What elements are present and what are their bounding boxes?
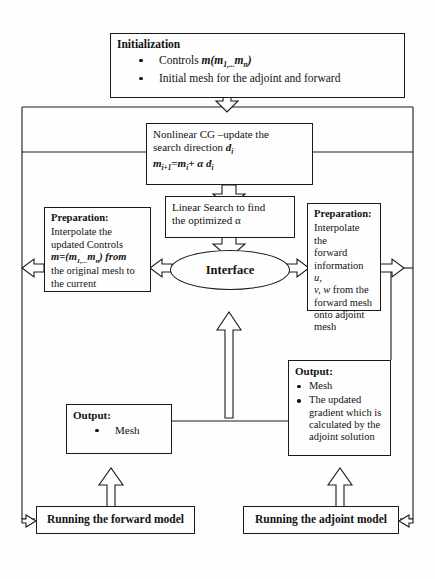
prep-right-line-1: Interpolate the [314, 222, 374, 247]
arrow-interface-to-prep-left [150, 259, 172, 277]
node-preparation-right: Preparation: Interpolate the forward inf… [307, 203, 381, 311]
node-forward-model: Running the forward model [36, 506, 195, 534]
output-right-grad-3: calculated by the [309, 419, 380, 430]
output-right-bullets: Mesh The updated gradient which is calcu… [295, 380, 384, 444]
cg-d2-sub: i [212, 164, 214, 172]
output-right-mesh-label: Mesh [309, 380, 332, 391]
prep-left-m-a: m=(m [51, 251, 77, 262]
initialization-bullet-controls: Controls m(m1,...mn) [117, 54, 398, 70]
cg-alpha: + α [188, 157, 206, 169]
node-linear-search: Linear Search to find the optimized α [165, 196, 295, 238]
prep-right-vw: v, w [314, 284, 330, 295]
adjoint-model-label: Running the adjoint model [255, 513, 387, 527]
initialization-bullet-mesh: Initial mesh for the adjoint and forward [117, 72, 398, 86]
output-right-grad-2: gradient which is [309, 407, 381, 418]
prep-left-m-c: ) from [99, 251, 126, 262]
cg-line-1: Nonlinear CG –update the [153, 128, 306, 141]
controls-label: Controls [159, 54, 202, 66]
arrow-prep-left-out [22, 259, 44, 277]
controls-math-c: ) [248, 54, 252, 66]
initialization-bullets: Controls m(m1,...mn) Initial mesh for th… [117, 54, 398, 86]
output-left-mesh-label: Mesh [115, 424, 139, 436]
prep-right-line-6: onto adjoint [314, 309, 374, 321]
prep-left-line-5: the current [51, 278, 144, 290]
linear-search-line-1: Linear Search to find [172, 201, 288, 214]
linear-search-line-2: the optimized α [172, 214, 288, 227]
output-right-bullet-mesh: Mesh [295, 380, 384, 392]
output-right-bullet-gradient: The updated gradient which is calculated… [295, 394, 384, 444]
prep-right-u: u, [314, 272, 322, 283]
controls-math-a: m(m [202, 54, 224, 66]
cg-search-dir-label: search direction [153, 141, 226, 153]
prep-left-line-4: the original mesh to [51, 265, 144, 277]
node-output-right: Output: Mesh The updated gradient which … [288, 360, 391, 456]
arrow-frame-to-forward-model [22, 515, 36, 527]
interface-label: Interface [206, 263, 255, 278]
cg-m-a: m [153, 157, 162, 169]
prep-right-line-5: forward mesh [314, 297, 374, 309]
arrow-interface-to-prep-right [287, 259, 309, 277]
prep-left-line-2: updated Controls [51, 239, 144, 251]
output-right-title: Output: [295, 365, 384, 378]
initialization-title: Initialization [117, 38, 398, 52]
prep-right-info-label: information [314, 260, 364, 271]
prep-right-line-2: forward [314, 247, 374, 259]
initial-mesh-label: Initial mesh for the adjoint and forward [159, 72, 340, 84]
cg-line-2: search direction di [153, 141, 306, 157]
node-initialization: Initialization Controls m(m1,...mn) Init… [110, 33, 405, 98]
cg-m-a-sub: i+1 [162, 164, 172, 172]
arrow-prep-right-out [380, 259, 404, 277]
node-preparation-left: Preparation: Interpolate the updated Con… [44, 207, 151, 292]
output-left-bullet-mesh: Mesh [73, 424, 165, 437]
controls-sub-1: 1,... [223, 60, 234, 69]
cg-line-3: mi+1=mi+ α di [153, 157, 306, 173]
prep-left-sub-1: 1,... [77, 257, 87, 264]
prep-right-line-7: mesh [314, 321, 374, 333]
output-left-bullets: Mesh [73, 424, 165, 437]
node-adjoint-model: Running the adjoint model [243, 506, 399, 534]
arrow-outputs-to-interface [217, 312, 241, 418]
prep-left-line-1: Interpolate the [51, 226, 144, 238]
prep-right-line-3: information u, [314, 260, 374, 285]
preparation-right-title: Preparation: [314, 208, 374, 220]
node-nonlinear-cg: Nonlinear CG –update the search directio… [146, 123, 313, 185]
prep-right-line-4: v, w from the [314, 284, 374, 296]
output-right-grad-1: The updated [309, 394, 361, 405]
output-right-grad-4: adjoint solution [309, 431, 375, 442]
flowchart-canvas: Initialization Controls m(m1,...mn) Init… [0, 0, 435, 579]
node-output-left: Output: Mesh [66, 404, 172, 454]
cg-m-b: =m [171, 157, 186, 169]
output-left-title: Output: [73, 409, 165, 422]
node-interface: Interface [170, 250, 290, 290]
preparation-left-title: Preparation: [51, 212, 144, 224]
controls-math-b: m [235, 54, 244, 66]
cg-d-sub: i [231, 148, 233, 156]
prep-right-from: from the [330, 284, 369, 295]
forward-model-label: Running the forward model [47, 513, 184, 527]
arrow-frame-to-adjoint-model [399, 515, 413, 527]
prep-left-line-3: m=(m1,...mn) from [51, 251, 144, 265]
